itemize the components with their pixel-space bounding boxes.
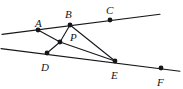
vertices-group: [36, 18, 164, 71]
upper-line-through-A-B-C: [2, 14, 160, 34]
segment-B-P: [60, 25, 70, 42]
vertex-point-e: [113, 59, 118, 64]
geometry-figure: ABCPDEF: [0, 0, 183, 89]
segment-P-E: [60, 42, 115, 61]
segment-A-P: [38, 30, 60, 42]
vertex-point-d: [45, 51, 50, 56]
vertex-point-c: [108, 18, 113, 23]
vertex-point-b: [68, 23, 73, 28]
point-label-c: C: [106, 5, 113, 16]
point-label-f: F: [157, 77, 164, 88]
point-label-d: D: [41, 62, 49, 73]
point-label-b: B: [65, 9, 72, 20]
vertex-point-p: [58, 40, 63, 45]
point-label-p: P: [70, 32, 77, 43]
point-label-a: A: [35, 18, 42, 29]
geometry-canvas: [0, 0, 183, 89]
vertex-point-f: [159, 66, 164, 71]
lines-group: [1, 14, 180, 71]
point-label-e: E: [111, 70, 118, 81]
segment-P-D: [47, 42, 60, 53]
